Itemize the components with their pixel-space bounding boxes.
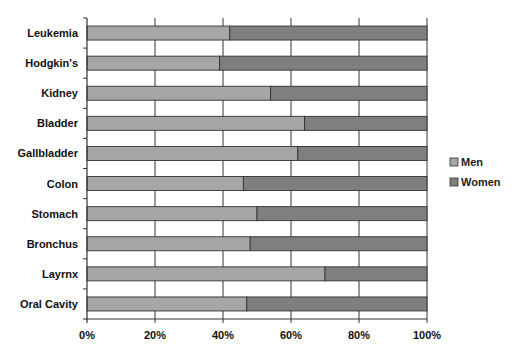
legend: Men Women bbox=[450, 156, 501, 188]
category-label: Bronchus bbox=[27, 238, 78, 250]
x-tick-label: 40% bbox=[212, 329, 234, 341]
bar-women bbox=[325, 267, 427, 281]
bar-women bbox=[298, 146, 427, 160]
category-label: Layrnx bbox=[42, 268, 79, 280]
bar-men bbox=[87, 26, 230, 40]
x-tick-labels: 0%20%40%60%80%100% bbox=[79, 329, 441, 341]
legend-swatch-women bbox=[450, 178, 458, 186]
bar-men bbox=[87, 267, 325, 281]
category-label: Leukemia bbox=[27, 27, 79, 39]
bar-men bbox=[87, 146, 298, 160]
category-label: Gallbladder bbox=[17, 147, 78, 159]
bar-men bbox=[87, 86, 271, 100]
category-label: Bladder bbox=[37, 117, 79, 129]
legend-swatch-men bbox=[450, 158, 458, 166]
x-tick-label: 60% bbox=[280, 329, 302, 341]
bar-women bbox=[243, 177, 427, 191]
category-labels: LeukemiaHodgkin'sKidneyBladderGallbladde… bbox=[17, 27, 78, 310]
x-tick-label: 20% bbox=[144, 329, 166, 341]
bar-women bbox=[257, 207, 427, 221]
bar-men bbox=[87, 207, 257, 221]
bar-men bbox=[87, 56, 220, 70]
bar-women bbox=[305, 116, 427, 130]
bars bbox=[87, 26, 427, 311]
category-label: Hodgkin's bbox=[25, 57, 78, 69]
bar-men bbox=[87, 237, 250, 251]
bar-women bbox=[230, 26, 427, 40]
category-label: Oral Cavity bbox=[20, 298, 79, 310]
x-tick-label: 100% bbox=[413, 329, 441, 341]
bar-men bbox=[87, 297, 247, 311]
legend-label-women: Women bbox=[461, 176, 501, 188]
bar-women bbox=[247, 297, 427, 311]
stacked-bar-chart: LeukemiaHodgkin'sKidneyBladderGallbladde… bbox=[0, 0, 528, 361]
category-label: Kidney bbox=[41, 87, 79, 99]
bar-women bbox=[220, 56, 427, 70]
legend-label-men: Men bbox=[461, 156, 483, 168]
bar-men bbox=[87, 177, 243, 191]
bar-men bbox=[87, 116, 305, 130]
category-label: Stomach bbox=[32, 208, 79, 220]
x-tick-label: 80% bbox=[348, 329, 370, 341]
x-tick-label: 0% bbox=[79, 329, 95, 341]
category-label: Colon bbox=[47, 178, 78, 190]
bar-women bbox=[271, 86, 427, 100]
bar-women bbox=[250, 237, 427, 251]
